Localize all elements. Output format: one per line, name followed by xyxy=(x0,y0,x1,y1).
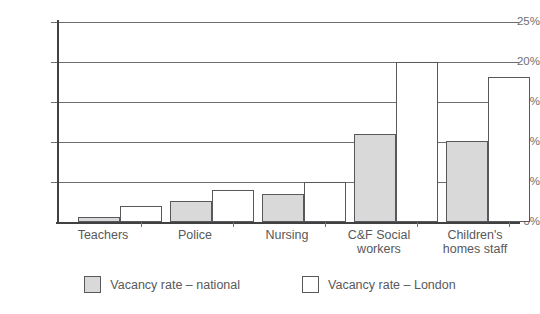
x-tick-4 xyxy=(417,222,418,227)
bar-nursing-national xyxy=(262,194,304,222)
bar-nursing-london xyxy=(304,182,346,222)
legend-item-london: Vacancy rate – London xyxy=(302,276,456,293)
y-axis-line xyxy=(57,20,59,224)
x-label-nursing: Nursing xyxy=(241,228,333,242)
bar-cf-social-workers-london xyxy=(396,62,438,222)
x-label-childrens-homes-staff-line2: homes staff xyxy=(425,242,525,256)
x-tick-5 xyxy=(509,222,510,227)
x-label-police: Police xyxy=(149,228,241,242)
x-label-nursing-line1: Nursing xyxy=(241,228,333,242)
x-label-teachers-line1: Teachers xyxy=(57,228,149,242)
x-label-cf-social-workers-line1: C&F Social xyxy=(333,228,425,242)
x-label-teachers: Teachers xyxy=(57,228,149,242)
x-label-police-line1: Police xyxy=(149,228,241,242)
plot-area xyxy=(57,22,519,222)
chart-legend: Vacancy rate – national Vacancy rate – L… xyxy=(0,276,540,293)
x-tick-3 xyxy=(325,222,326,227)
vacancy-rate-bar-chart: p 25% 20% 15% 10% 5% 0% xyxy=(0,0,540,314)
bar-police-london xyxy=(212,190,254,222)
x-label-childrens-homes-staff-line1: Children's xyxy=(425,228,525,242)
legend-label-national: Vacancy rate – national xyxy=(110,278,240,292)
legend-swatch-national-icon xyxy=(84,276,101,293)
x-label-childrens-homes-staff: Children's homes staff xyxy=(425,228,525,256)
bar-childrens-homes-staff-national xyxy=(446,141,488,222)
x-label-cf-social-workers: C&F Social workers xyxy=(333,228,425,256)
chart-title-cropped: p xyxy=(168,0,175,4)
gridline-15 xyxy=(57,102,519,103)
x-axis-line xyxy=(56,222,520,224)
legend-swatch-london-icon xyxy=(302,276,319,293)
bar-cf-social-workers-national xyxy=(354,134,396,222)
gridline-25 xyxy=(57,22,519,23)
gridline-20 xyxy=(57,62,519,63)
x-label-cf-social-workers-line2: workers xyxy=(333,242,425,256)
legend-label-london: Vacancy rate – London xyxy=(328,278,456,292)
x-tick-1 xyxy=(141,222,142,227)
bar-police-national xyxy=(170,201,212,222)
bar-teachers-london xyxy=(120,206,162,222)
x-tick-2 xyxy=(233,222,234,227)
bar-childrens-homes-staff-london xyxy=(488,77,530,222)
legend-item-national: Vacancy rate – national xyxy=(84,276,240,293)
